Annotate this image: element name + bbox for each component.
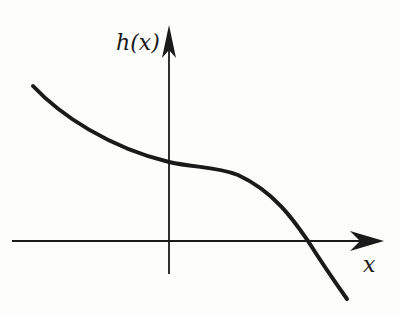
y-axis-label: h(x) <box>116 30 160 55</box>
function-graph: h(x) x <box>0 0 399 314</box>
curve-h-of-x <box>33 86 347 299</box>
x-axis-label: x <box>363 252 375 277</box>
graph-canvas <box>0 0 399 314</box>
